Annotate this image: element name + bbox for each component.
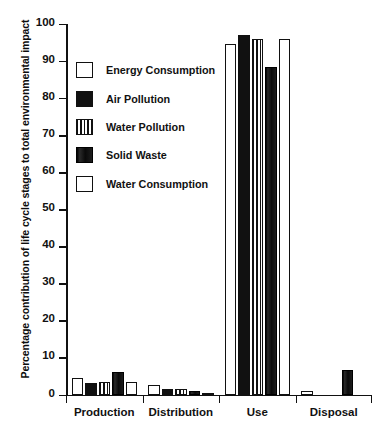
bar-disposal-solid-waste — [342, 370, 354, 394]
x-axis-label-distribution: Distribution — [143, 406, 220, 418]
group-separator-2 — [219, 395, 220, 403]
y-tick-label: 90 — [42, 53, 55, 65]
y-tick-label: 70 — [42, 127, 55, 139]
y-tick-label: 50 — [42, 201, 55, 213]
bar-production-water-consumption — [126, 382, 138, 395]
legend-label: Water Consumption — [106, 178, 208, 190]
y-tick-label: 60 — [42, 164, 55, 176]
legend-item-water-consumption: Water Consumption — [76, 170, 236, 198]
y-tick-20: 20 — [59, 320, 66, 321]
x-axis-label-production: Production — [66, 406, 143, 418]
legend-item-solid-waste: Solid Waste — [76, 141, 236, 169]
group-separator-3 — [296, 395, 297, 403]
y-tick-50: 50 — [59, 209, 66, 210]
y-tick-0: 0 — [59, 395, 66, 396]
y-tick-label: 80 — [42, 90, 55, 102]
y-tick-10: 10 — [59, 357, 66, 358]
y-tick-label: 100 — [36, 16, 55, 28]
y-tick-label: 40 — [42, 238, 55, 250]
bar-use-water-consumption — [279, 39, 291, 395]
y-tick-label: 20 — [42, 312, 55, 324]
group-separator-4 — [371, 395, 372, 403]
group-separator-0 — [66, 395, 67, 403]
y-tick-label: 0 — [49, 387, 55, 399]
legend-label: Air Pollution — [106, 93, 170, 105]
legend-label: Energy Consumption — [106, 64, 215, 76]
x-axis-label-disposal: Disposal — [296, 406, 373, 418]
bar-production-solid-waste — [112, 372, 124, 394]
bar-disposal-energy-consumption — [301, 391, 313, 395]
legend-item-air-pollution: Air Pollution — [76, 84, 236, 112]
legend-label: Solid Waste — [106, 149, 167, 161]
bar-use-solid-waste — [265, 67, 277, 395]
bar-production-energy-consumption — [72, 378, 84, 395]
legend: Energy ConsumptionAir PollutionWater Pol… — [76, 56, 236, 198]
y-tick-40: 40 — [59, 246, 66, 247]
y-tick-90: 90 — [59, 61, 66, 62]
y-tick-70: 70 — [59, 135, 66, 136]
group-separator-1 — [143, 395, 144, 403]
y-tick-30: 30 — [59, 283, 66, 284]
legend-swatch-icon — [76, 91, 93, 107]
bar-production-water-pollution — [99, 382, 111, 395]
legend-swatch-icon — [76, 147, 93, 163]
bar-distribution-water-pollution — [175, 389, 187, 395]
bar-use-air-pollution — [238, 35, 250, 394]
y-tick-60: 60 — [59, 172, 66, 173]
bar-use-water-pollution — [252, 39, 264, 395]
legend-swatch-icon — [76, 176, 93, 192]
y-tick-label: 10 — [42, 349, 55, 361]
bar-distribution-water-consumption — [202, 393, 214, 395]
bar-distribution-energy-consumption — [148, 385, 160, 394]
x-axis-label-use: Use — [219, 406, 296, 418]
bar-distribution-air-pollution — [162, 389, 174, 395]
legend-item-water-pollution: Water Pollution — [76, 113, 236, 141]
y-tick-100: 100 — [59, 24, 66, 25]
y-tick-80: 80 — [59, 98, 66, 99]
bar-production-air-pollution — [85, 383, 97, 394]
legend-item-energy-consumption: Energy Consumption — [76, 56, 236, 84]
y-axis-line — [66, 24, 68, 396]
legend-swatch-icon — [76, 62, 93, 78]
bar-chart: Percentage contribution of life cycle st… — [0, 0, 380, 435]
y-tick-label: 30 — [42, 275, 55, 287]
legend-swatch-icon — [76, 119, 93, 135]
legend-label: Water Pollution — [106, 121, 185, 133]
y-axis-title: Percentage contribution of life cycle st… — [19, 0, 31, 399]
bar-distribution-solid-waste — [189, 391, 201, 395]
